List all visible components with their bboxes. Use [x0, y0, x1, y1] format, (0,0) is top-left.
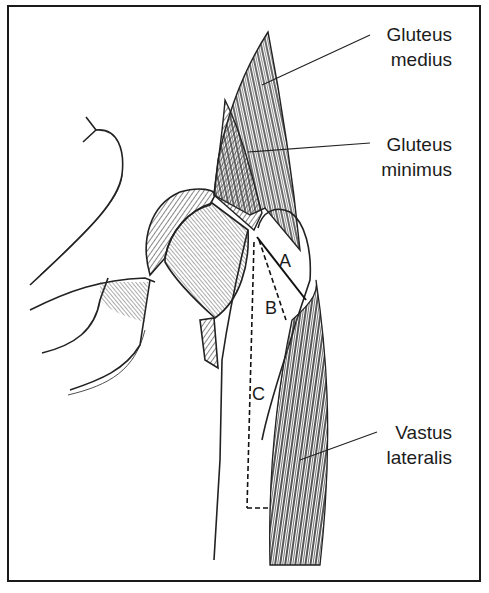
- zone-label-a: A: [279, 251, 291, 272]
- zone-label-b: B: [265, 298, 277, 319]
- label-gluteus-minimus: Gluteus minimus: [360, 132, 452, 182]
- pelvis: [30, 117, 155, 395]
- zone-label-c: C: [252, 384, 265, 405]
- label-gluteus-medius: Gluteus medius: [372, 22, 452, 72]
- leader-gluteus-medius: [262, 35, 370, 85]
- anatomy-illustration: [0, 0, 489, 593]
- femoral-head: [146, 189, 248, 368]
- vastus-lateralis-muscle: [270, 280, 328, 565]
- label-vastus-lateralis: Vastus lateralis: [372, 420, 452, 470]
